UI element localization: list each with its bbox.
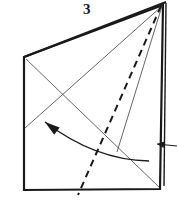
step-number-label: 3 — [83, 2, 91, 17]
origami-diagram: 3 — [0, 0, 177, 208]
origami-figure-svg — [0, 0, 177, 208]
